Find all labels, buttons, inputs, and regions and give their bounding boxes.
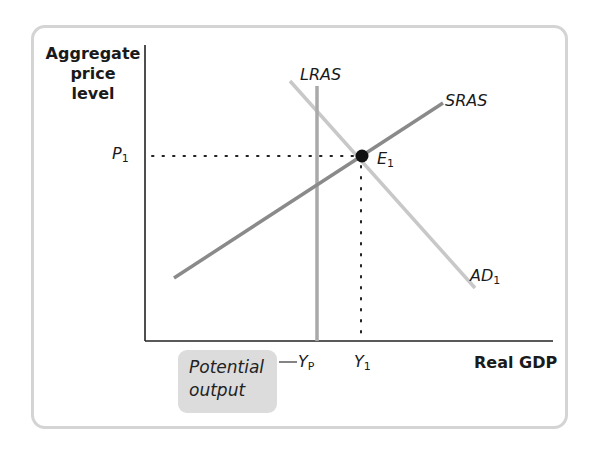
p1-tick-label: P1 <box>112 144 129 165</box>
potential-output-callout: Potential output <box>178 350 277 413</box>
ad1-label: AD1 <box>470 266 500 287</box>
lras-label: LRAS <box>300 65 341 84</box>
equilibrium-point-e1 <box>356 150 369 163</box>
yp-tick-label: YP <box>298 352 314 373</box>
x-axis-label: Real GDP <box>474 353 557 372</box>
y1-tick-label: Y1 <box>354 352 371 373</box>
sras-label: SRAS <box>445 91 487 110</box>
y-axis-label: Aggregate price level <box>44 44 142 104</box>
e1-label: E1 <box>377 149 394 170</box>
sras-curve <box>174 103 443 278</box>
